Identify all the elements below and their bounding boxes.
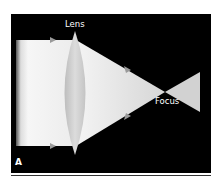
converging-beam: [76, 40, 165, 146]
focus-label: Focus: [155, 97, 179, 106]
divider: [11, 175, 211, 176]
diverging-beam: [165, 72, 200, 112]
lens-label: Lens: [65, 20, 85, 29]
lens-focus-diagram: [0, 0, 217, 179]
panel-label: A: [15, 158, 22, 167]
